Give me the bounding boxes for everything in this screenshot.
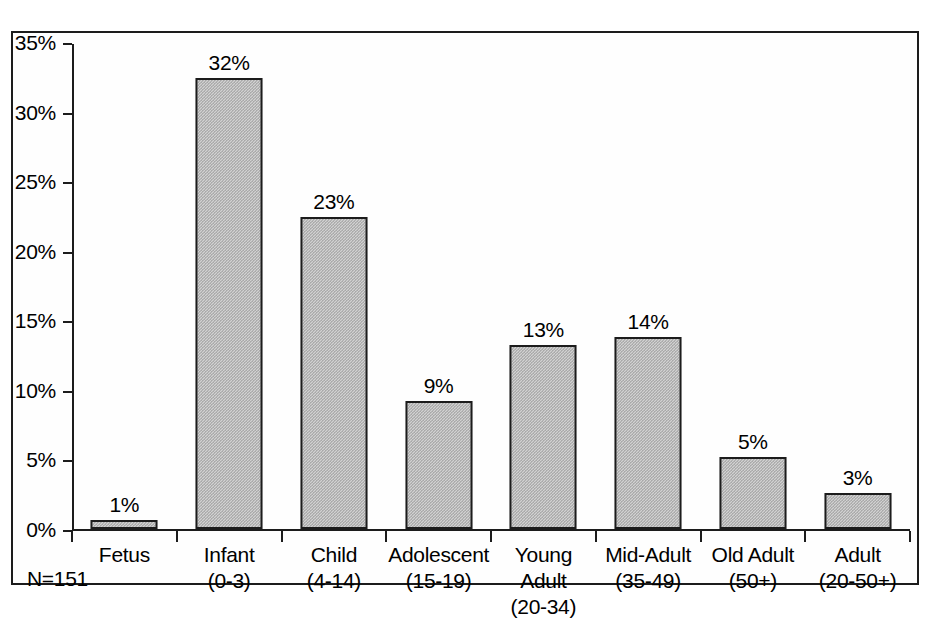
- x-axis-category-label: Adult(20-50+): [805, 542, 910, 594]
- sample-size-annotation: N=151: [27, 568, 88, 589]
- category-name: Fetus: [72, 542, 177, 568]
- x-axis-category-labels: FetusInfant(0-3)Child(4-14)Adolescent(15…: [72, 542, 910, 604]
- bar-value-label: 1%: [109, 494, 139, 515]
- y-axis-tick: 35%: [63, 43, 72, 45]
- x-axis-tick: [385, 531, 387, 542]
- bar-slot: 23%: [282, 44, 387, 529]
- bar-value-label: 5%: [738, 431, 768, 452]
- bar-value-label: 23%: [313, 191, 354, 212]
- y-axis-tick-label: 15%: [15, 310, 56, 331]
- bar-slot: 3%: [805, 44, 910, 529]
- plot-area: 0%5%10%15%20%25%30%35% 1%32%23%9%13%14%5…: [72, 44, 910, 531]
- category-age-range: (4-14): [282, 568, 387, 594]
- bar-slot: 5%: [701, 44, 806, 529]
- category-name: Infant: [177, 542, 282, 568]
- category-name: Young Adult: [491, 542, 596, 594]
- bar-value-label: 3%: [843, 467, 873, 488]
- bar-value-label: 14%: [628, 311, 669, 332]
- category-age-range: (35-49): [596, 568, 701, 594]
- bar[interactable]: [405, 401, 472, 529]
- bar-slot: 9%: [386, 44, 491, 529]
- y-axis-tick: 30%: [63, 113, 72, 115]
- y-axis-tick-label: 5%: [26, 449, 56, 470]
- bar[interactable]: [300, 217, 367, 529]
- bar-value-label: 9%: [424, 375, 454, 396]
- bar[interactable]: [196, 78, 263, 529]
- y-axis-tick: 5%: [63, 460, 72, 462]
- bar-series: 1%32%23%9%13%14%5%3%: [72, 44, 910, 529]
- x-axis-tick: [804, 531, 806, 542]
- y-axis-tick: 20%: [63, 252, 72, 254]
- x-axis-category-label: Adolescent(15-19): [386, 542, 491, 594]
- category-name: Adolescent: [386, 542, 491, 568]
- bar-value-label: 32%: [209, 52, 250, 73]
- y-axis-tick: 25%: [63, 182, 72, 184]
- y-axis-tick-label: 30%: [15, 101, 56, 122]
- bar-value-label: 13%: [523, 319, 564, 340]
- bar-slot: 14%: [596, 44, 701, 529]
- category-name: Adult: [805, 542, 910, 568]
- x-axis-tick: [909, 531, 911, 542]
- y-axis-tick: 10%: [63, 391, 72, 393]
- x-axis-tick: [700, 531, 702, 542]
- bar[interactable]: [510, 345, 577, 529]
- x-axis-tick: [595, 531, 597, 542]
- y-axis-tick-label: 0%: [26, 519, 56, 540]
- bar[interactable]: [91, 520, 158, 529]
- category-age-range: (50+): [701, 568, 806, 594]
- y-axis-tick: 15%: [63, 321, 72, 323]
- bar[interactable]: [719, 457, 786, 529]
- x-axis-category-label: Young Adult(20-34): [491, 542, 596, 620]
- y-axis-tick-label: 35%: [15, 32, 56, 53]
- chart-frame: 0%5%10%15%20%25%30%35% 1%32%23%9%13%14%5…: [11, 31, 919, 585]
- category-age-range: (15-19): [386, 568, 491, 594]
- bar-slot: 32%: [177, 44, 282, 529]
- x-axis-tick: [176, 531, 178, 542]
- bar-slot: 13%: [491, 44, 596, 529]
- y-axis-tick-label: 10%: [15, 380, 56, 401]
- category-age-range: (0-3): [177, 568, 282, 594]
- x-axis-tick: [281, 531, 283, 542]
- x-axis-category-label: Mid-Adult(35-49): [596, 542, 701, 594]
- category-age-range: (20-50+): [805, 568, 910, 594]
- category-age-range: (20-34): [491, 594, 596, 620]
- bar-slot: 1%: [72, 44, 177, 529]
- category-name: Mid-Adult: [596, 542, 701, 568]
- x-axis-tick: [490, 531, 492, 542]
- x-axis-category-label: Infant(0-3): [177, 542, 282, 594]
- y-axis-tick-label: 25%: [15, 171, 56, 192]
- y-axis-tick-label: 20%: [15, 240, 56, 261]
- x-axis-category-label: Child(4-14): [282, 542, 387, 594]
- bar[interactable]: [615, 337, 682, 529]
- x-axis-category-label: Old Adult(50+): [701, 542, 806, 594]
- x-axis-tick: [71, 531, 73, 542]
- category-name: Old Adult: [701, 542, 806, 568]
- x-axis-category-label: Fetus: [72, 542, 177, 568]
- category-name: Child: [282, 542, 387, 568]
- bar[interactable]: [824, 493, 891, 529]
